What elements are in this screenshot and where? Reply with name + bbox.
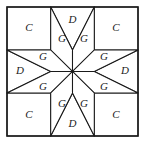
eight-pointed-star-diagram: C C C C D D D D G G G G G G G G [0,0,146,145]
label-star-point-s-left: G [58,97,66,109]
label-star-point-n-left: G [58,32,66,44]
label-star-point-w-upper: G [39,50,47,62]
label-star-point-n-right: G [80,32,88,44]
label-star-point-e-lower: G [100,80,108,92]
label-edge-bottom: D [68,117,77,129]
label-star-point-e-upper: G [100,50,108,62]
label-edge-top: D [68,13,77,25]
label-corner-bottom-left: C [25,108,33,120]
label-edge-left: D [15,64,24,76]
label-edge-right: D [120,64,129,76]
label-star-point-s-right: G [80,97,88,109]
label-corner-top-left: C [25,21,33,33]
label-star-point-w-lower: G [39,80,47,92]
quilt-block-figure: C C C C D D D D G G G G G G G G [0,0,146,145]
label-corner-bottom-right: C [112,108,120,120]
label-corner-top-right: C [112,21,120,33]
